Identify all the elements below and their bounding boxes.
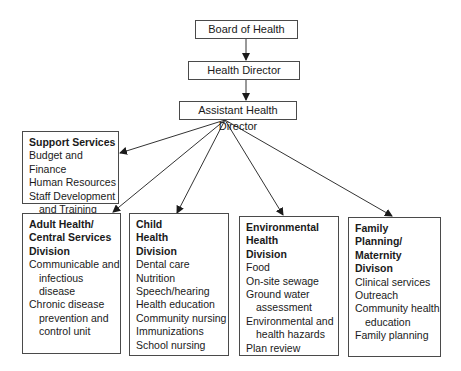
arrow-to-adult bbox=[113, 120, 225, 212]
division-title: Health bbox=[246, 234, 338, 247]
support-services-title: Support Services bbox=[29, 136, 118, 149]
division-item: Immunizations bbox=[136, 325, 228, 338]
child-health-division-box: Child Health Division Dental care Nutrit… bbox=[129, 213, 229, 356]
division-title: Child bbox=[136, 218, 228, 231]
support-item: Budget and Finance bbox=[29, 149, 118, 176]
health-director-box: Health Director bbox=[188, 61, 300, 80]
division-item: Outreach bbox=[355, 289, 440, 302]
support-services-box: Support Services Budget and Finance Huma… bbox=[22, 131, 119, 204]
division-item: Community healtheducation bbox=[355, 302, 440, 329]
division-item: Communicable andinfectious disease bbox=[29, 258, 120, 298]
division-title: Maternity Divison bbox=[355, 249, 440, 276]
division-item: School nursing bbox=[136, 339, 228, 352]
division-item: Family planning bbox=[355, 329, 440, 342]
board-of-health-box: Board of Health bbox=[195, 20, 298, 39]
division-item: Speech/hearing bbox=[136, 285, 228, 298]
division-item: On-site sewage bbox=[246, 275, 338, 288]
division-item: Ground waterassessment bbox=[246, 288, 338, 315]
adult-health-division-box: Adult Health/ Central Services Division … bbox=[22, 213, 121, 354]
division-item: Community nursing bbox=[136, 312, 228, 325]
arrow-to-child bbox=[177, 120, 225, 213]
division-title: Planning/ bbox=[355, 235, 440, 248]
division-title: Division bbox=[246, 248, 338, 261]
family-planning-division-box: Family Planning/ Maternity Divison Clini… bbox=[348, 217, 441, 357]
division-title: Division bbox=[29, 245, 120, 258]
division-item: Clinical services bbox=[355, 276, 440, 289]
support-item: Human Resources bbox=[29, 176, 118, 189]
environmental-health-division-box: Environmental Health Division Food On-si… bbox=[239, 216, 339, 356]
division-item: Nutrition bbox=[136, 272, 228, 285]
arrow-to-family bbox=[225, 120, 392, 216]
health-director-label: Health Director bbox=[207, 64, 280, 76]
division-title: Central Services bbox=[29, 231, 120, 244]
division-item: Chronic diseaseprevention andcontrol uni… bbox=[29, 298, 120, 338]
division-item: Food bbox=[246, 261, 338, 274]
division-item: Environmental andhealth hazards bbox=[246, 315, 338, 342]
division-title: Family bbox=[355, 222, 440, 235]
division-item: Plan review bbox=[246, 342, 338, 355]
division-item: Dental care bbox=[136, 258, 228, 271]
board-of-health-label: Board of Health bbox=[208, 23, 284, 35]
arrow-to-environmental bbox=[225, 120, 283, 215]
arrow-to-support bbox=[120, 120, 225, 153]
division-title: Adult Health/ bbox=[29, 218, 120, 231]
division-title: Division bbox=[136, 245, 228, 258]
division-title: Environmental bbox=[246, 221, 338, 234]
assistant-health-director-box: Assistant Health Director bbox=[179, 101, 297, 120]
division-title: Health bbox=[136, 231, 228, 244]
division-item: Health education bbox=[136, 298, 228, 311]
